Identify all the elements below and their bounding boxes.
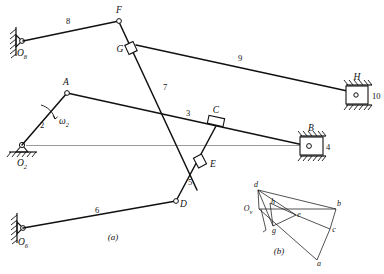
link-number-3: 3 [186, 108, 190, 118]
link-number-10: 10 [372, 91, 381, 101]
joint-label-g: G [117, 44, 124, 54]
joint-label-a: A [62, 77, 69, 87]
joint-label-b: B [308, 123, 314, 133]
link-number-8: 8 [66, 16, 70, 26]
polygon-node-ov: Ov [244, 204, 253, 215]
link-number-5: 5 [188, 177, 192, 187]
polygon-node-a: a [317, 259, 321, 268]
joint-label-h: H [353, 72, 362, 82]
link-number-7: 7 [163, 82, 167, 92]
link-number-9: 9 [238, 53, 242, 63]
joint-label-e: E [209, 159, 216, 169]
label-layer: O8 O2 O6 F G A C E D B H 8 9 10 7 2 3 4 … [0, 0, 384, 274]
caption-b: (b) [274, 246, 285, 256]
figure-canvas: O8 O2 O6 F G A C E D B H 8 9 10 7 2 3 4 … [0, 0, 384, 274]
polygon-node-e: e [297, 210, 301, 219]
link-number-6: 6 [95, 205, 99, 215]
polygon-node-c: c [332, 225, 336, 234]
link-number-2: 2 [40, 120, 44, 130]
polygon-node-g: g [272, 226, 276, 235]
caption-a: (a) [108, 232, 119, 242]
joint-label-o8: O8 [17, 48, 28, 60]
polygon-node-d: d [254, 180, 259, 189]
polygon-node-h: h [271, 197, 275, 206]
joint-label-o6: O6 [18, 237, 29, 249]
joint-label-c: C [213, 105, 220, 115]
link-number-4: 4 [326, 142, 331, 152]
joint-label-f: F [115, 5, 122, 15]
omega2-label: ω2 [59, 116, 70, 128]
joint-label-d: D [179, 199, 187, 209]
joint-label-o2: O2 [17, 158, 28, 170]
polygon-node-b: b [337, 199, 341, 208]
